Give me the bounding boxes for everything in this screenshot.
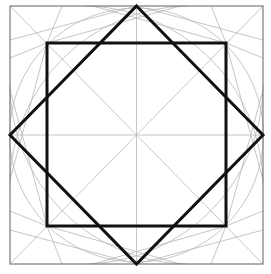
star-construction-diagram [0,0,271,274]
